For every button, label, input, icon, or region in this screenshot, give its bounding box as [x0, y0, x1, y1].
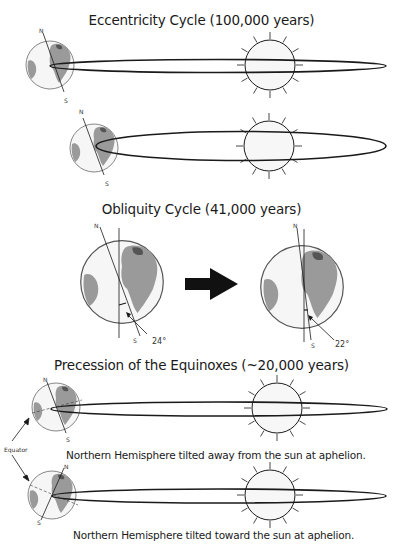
prec1-sun-icon	[244, 375, 310, 441]
milankovitch-diagram	[0, 0, 403, 550]
equator-pointer-arrows	[12, 418, 29, 481]
prec1-orbit	[51, 402, 387, 416]
prec2-sun-icon	[237, 462, 303, 528]
ecc1-orbit	[50, 60, 386, 73]
ecc1-sun-icon	[237, 32, 303, 98]
obliquity-right-arrow-icon	[185, 268, 238, 300]
prec2-earth-globe	[28, 468, 78, 520]
ecc2-earth-globe	[70, 118, 118, 175]
ecc2-sun-icon	[236, 113, 302, 179]
obl-right-earth-globe	[261, 246, 344, 329]
prec2-orbit	[52, 489, 386, 503]
obl-left-earth-globe	[81, 241, 164, 324]
